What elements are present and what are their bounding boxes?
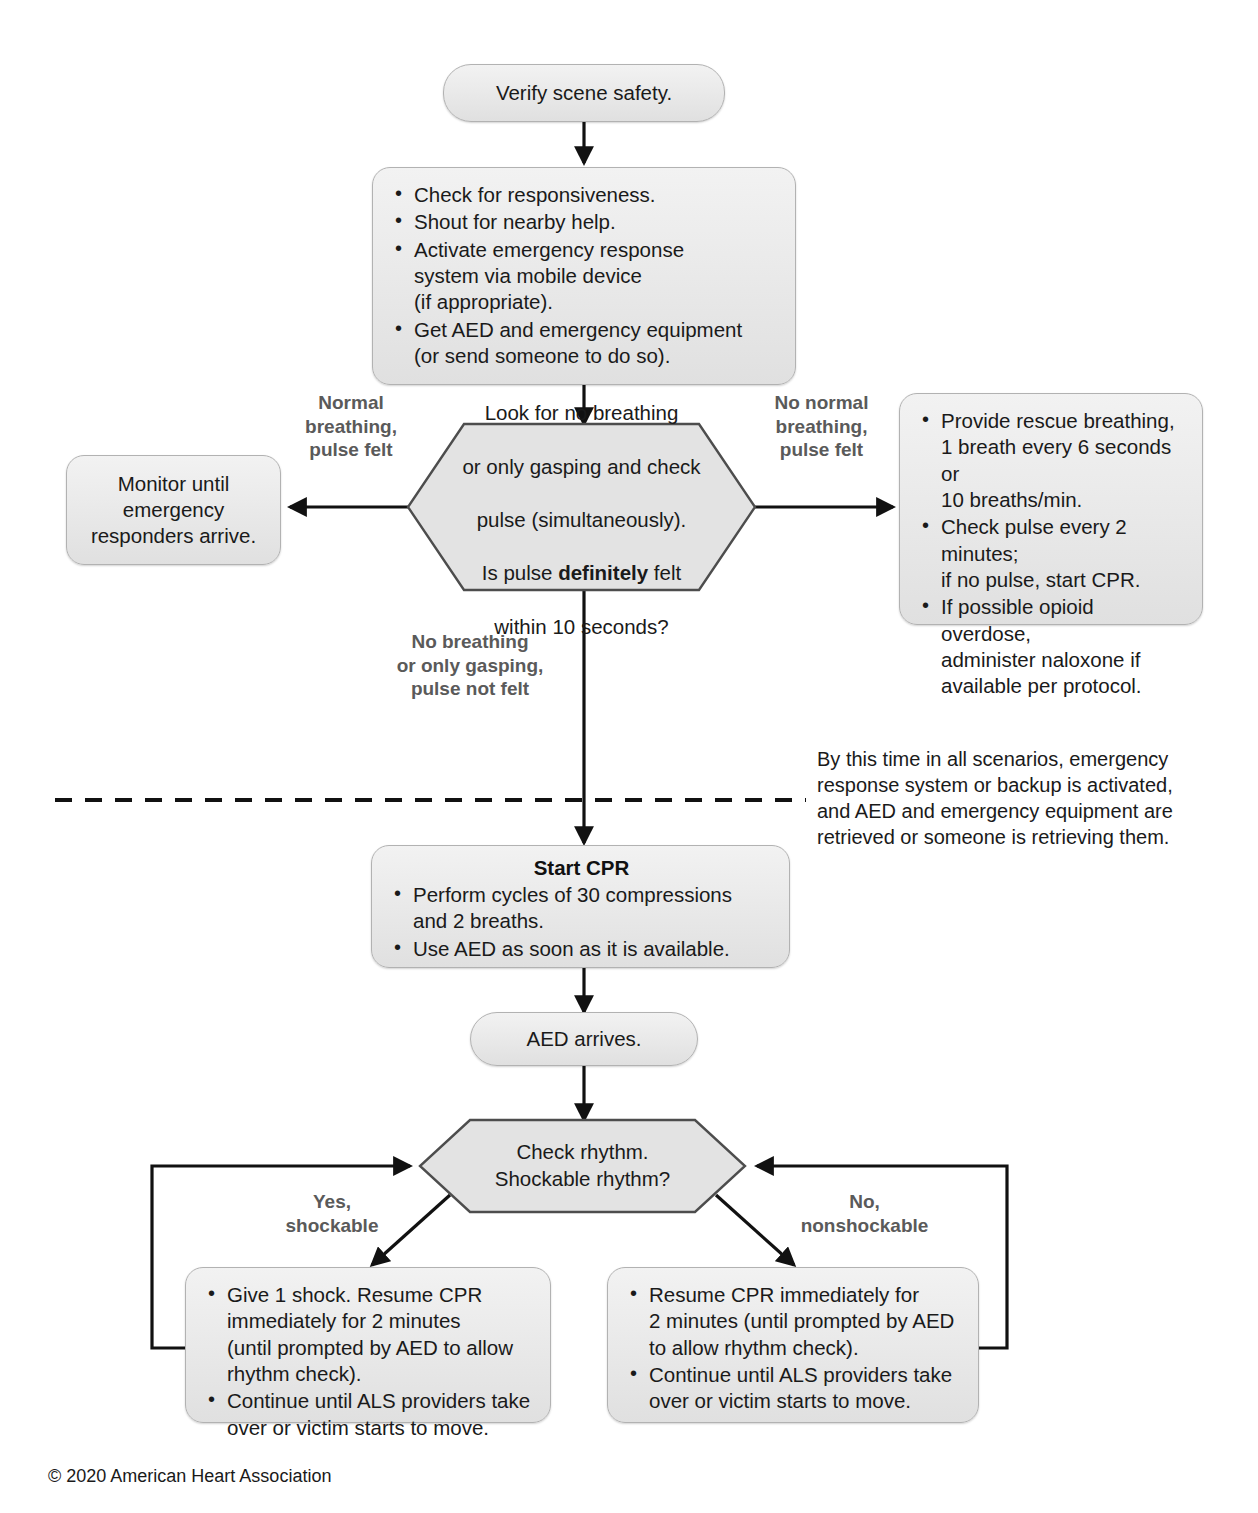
list-item: Use AED as soon as it is available. xyxy=(392,936,771,962)
list-item: Give 1 shock. Resume CPR immediately for… xyxy=(206,1282,532,1387)
node-breathing-pulse-decision[interactable]: Look for no breathing or only gasping an… xyxy=(406,422,757,592)
nonshockable-action-body: Resume CPR immediately for 2 minutes (un… xyxy=(608,1268,978,1430)
list-item: Check for responsiveness. xyxy=(393,182,777,208)
node-nonshockable-action[interactable]: Resume CPR immediately for 2 minutes (un… xyxy=(607,1267,979,1423)
decision-line-4-pre: Is pulse xyxy=(482,561,558,584)
breathing-pulse-decision-text: Look for no breathing or only gasping an… xyxy=(406,422,757,592)
node-rescue-breathing[interactable]: Provide rescue breathing, 1 breath every… xyxy=(899,393,1203,625)
edge-label-normal-breathing: Normal breathing, pulse felt xyxy=(292,391,410,462)
node-monitor-until-responders[interactable]: Monitor until emergency responders arriv… xyxy=(66,455,281,565)
copyright-notice: © 2020 American Heart Association xyxy=(48,1466,331,1487)
node-verify-scene-safety[interactable]: Verify scene safety. xyxy=(443,64,725,122)
decision-line-1: Look for no breathing xyxy=(485,401,679,424)
list-item: Provide rescue breathing, 1 breath every… xyxy=(920,408,1184,513)
check-rhythm-decision-text: Check rhythm. Shockable rhythm? xyxy=(418,1118,747,1214)
node-start-cpr[interactable]: Start CPR Perform cycles of 30 compressi… xyxy=(371,845,790,968)
decision-line-4-emphasis: definitely xyxy=(558,561,648,584)
list-item: Continue until ALS providers take over o… xyxy=(206,1388,532,1441)
decision-line-2: or only gasping and check xyxy=(462,455,700,478)
decision-line-4-post: felt xyxy=(648,561,681,584)
node-shockable-action[interactable]: Give 1 shock. Resume CPR immediately for… xyxy=(185,1267,551,1423)
start-cpr-body: Start CPR Perform cycles of 30 compressi… xyxy=(372,846,789,977)
edge-label-no-normal-breathing: No normal breathing, pulse felt xyxy=(753,391,890,462)
list-item: Perform cycles of 30 compressions and 2 … xyxy=(392,882,771,935)
rescue-breathing-list: Provide rescue breathing, 1 breath every… xyxy=(920,408,1184,700)
nonshockable-action-list: Resume CPR immediately for 2 minutes (un… xyxy=(628,1282,960,1415)
list-item: Continue until ALS providers take over o… xyxy=(628,1362,960,1415)
edge-label-no-nonshockable: No, nonshockable xyxy=(757,1190,972,1237)
flowchart-page: Verify scene safety. Check for responsiv… xyxy=(0,0,1258,1513)
node-initial-assessment[interactable]: Check for responsiveness. Shout for near… xyxy=(372,167,796,385)
list-item: If possible opioid overdose, administer … xyxy=(920,594,1184,699)
initial-assessment-list: Check for responsiveness. Shout for near… xyxy=(393,182,777,369)
edge-label-yes-shockable: Yes, shockable xyxy=(252,1190,412,1237)
list-item: Get AED and emergency equipment (or send… xyxy=(393,317,777,370)
aed-arrives-text: AED arrives. xyxy=(526,1026,641,1052)
edge-label-no-breathing-no-pulse: No breathing or only gasping, pulse not … xyxy=(370,630,570,701)
list-item: Shout for nearby help. xyxy=(393,209,777,235)
start-cpr-list: Perform cycles of 30 compressions and 2 … xyxy=(392,882,771,962)
monitor-until-responders-text: Monitor until emergency responders arriv… xyxy=(91,471,256,550)
rescue-breathing-body: Provide rescue breathing, 1 breath every… xyxy=(900,394,1202,715)
list-item: Check pulse every 2 minutes; if no pulse… xyxy=(920,514,1184,593)
verify-scene-safety-text: Verify scene safety. xyxy=(496,80,672,106)
start-cpr-title: Start CPR xyxy=(392,856,771,880)
shockable-action-list: Give 1 shock. Resume CPR immediately for… xyxy=(206,1282,532,1441)
divider-note: By this time in all scenarios, emergency… xyxy=(817,746,1217,850)
node-aed-arrives[interactable]: AED arrives. xyxy=(470,1012,698,1066)
decision-line-3: pulse (simultaneously). xyxy=(477,508,687,531)
list-item: Resume CPR immediately for 2 minutes (un… xyxy=(628,1282,960,1361)
node-check-rhythm-decision[interactable]: Check rhythm. Shockable rhythm? xyxy=(418,1118,747,1214)
shockable-action-body: Give 1 shock. Resume CPR immediately for… xyxy=(186,1268,550,1456)
initial-assessment-body: Check for responsiveness. Shout for near… xyxy=(373,168,795,384)
list-item: Activate emergency response system via m… xyxy=(393,237,777,316)
